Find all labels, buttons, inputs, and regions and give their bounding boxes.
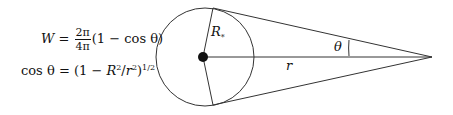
w-symbol: W: [41, 31, 54, 46]
radius-line-bottom: [203, 57, 213, 105]
radius-star-text: R: [211, 24, 221, 39]
half-exponent: 1/2: [142, 63, 155, 72]
geometry-figure: [0, 0, 453, 115]
distance-label: r: [286, 58, 292, 73]
radius-star-label: R*: [211, 24, 225, 42]
tangent-line-bottom: [213, 57, 432, 105]
center-dot: [198, 52, 208, 62]
fraction: 2π4π: [75, 27, 91, 52]
equation-cos: cos θ = (1 − R2/r2)1/2: [21, 63, 155, 78]
angle-label: θ: [334, 39, 342, 54]
cos-lhs: cos θ: [21, 63, 55, 78]
radius-star-subscript: *: [221, 33, 225, 42]
tangent-line-top: [213, 8, 432, 57]
fraction-numerator: 2π: [75, 27, 91, 40]
diagram: W = 2π4π(1 − cos θ) cos θ = (1 − R2/r2)1…: [0, 0, 453, 115]
w-rhs: (1 − cos θ): [92, 31, 163, 46]
fraction-denominator: 4π: [75, 40, 91, 52]
cos-eq: = (1 −: [55, 63, 107, 78]
equals-sign: =: [54, 31, 73, 46]
equation-w: W = 2π4π(1 − cos θ): [41, 27, 163, 52]
r-star-symbol: R: [106, 63, 116, 78]
